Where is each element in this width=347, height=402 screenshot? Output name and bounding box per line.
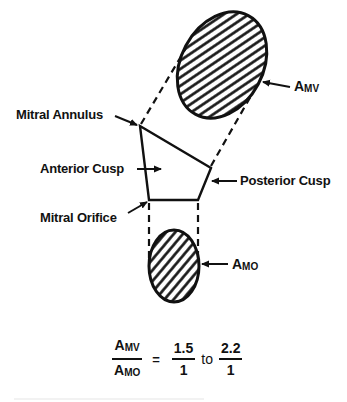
high-ratio-numerator: 2.2 <box>219 340 242 356</box>
numerator-subscript: MV <box>125 342 140 353</box>
denominator-base: A <box>114 362 124 378</box>
area-ratio-formula: AMV AMO = 1.5 1 to 2.2 1 <box>112 337 242 381</box>
ratio-numerator: AMV <box>113 337 142 356</box>
label-posterior-cusp: Posterior Cusp <box>240 174 330 187</box>
label-a-mv: AMV <box>294 79 320 94</box>
a-mo-base: A <box>232 256 242 272</box>
equals-sign: = <box>152 352 160 367</box>
cropped-caption-remnant <box>14 398 204 400</box>
fraction-bar <box>172 358 195 360</box>
low-ratio-denominator: 1 <box>178 362 190 378</box>
a-mo-subscript: MO <box>242 261 259 272</box>
high-ratio-fraction: 2.2 1 <box>219 340 242 378</box>
leaflet-polygon <box>140 126 211 200</box>
denominator-subscript: MO <box>124 367 140 378</box>
a-mv-base: A <box>294 78 304 94</box>
high-ratio-denominator: 1 <box>225 362 237 378</box>
fraction-bar <box>219 358 242 360</box>
arrow-a-mv <box>263 82 290 87</box>
low-ratio-numerator: 1.5 <box>172 340 195 356</box>
orifice-area-ellipse <box>149 230 199 302</box>
label-anterior-cusp: Anterior Cusp <box>40 162 124 175</box>
arrow-mitral-orifice <box>128 202 147 213</box>
label-mitral-annulus: Mitral Annulus <box>16 108 103 121</box>
arrow-mitral-annulus <box>115 116 137 125</box>
numerator-base: A <box>115 337 125 353</box>
range-connector: to <box>201 351 213 367</box>
ratio-fraction: AMV AMO <box>112 337 142 381</box>
label-mitral-orifice: Mitral Orifice <box>40 211 117 224</box>
label-a-mo: AMO <box>232 257 259 272</box>
valve-area-ellipse <box>160 0 285 134</box>
fraction-bar <box>112 358 142 360</box>
a-mv-subscript: MV <box>304 83 320 94</box>
low-ratio-fraction: 1.5 1 <box>172 340 195 378</box>
ratio-denominator: AMO <box>112 362 142 381</box>
